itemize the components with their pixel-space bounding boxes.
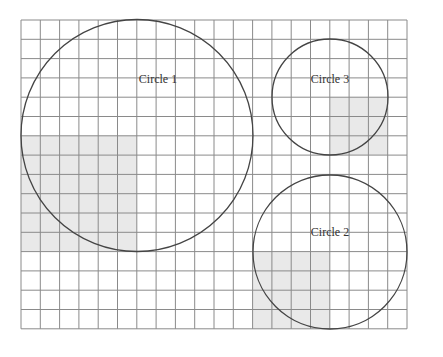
circles-grid-diagram: Circle 1Circle 2Circle 3 [0,0,443,357]
shaded-region-circle-3 [330,97,388,155]
grid [21,20,407,329]
circle-2-label: Circle 2 [311,225,349,239]
circle-3-label: Circle 3 [311,72,349,86]
circle-1-label: Circle 1 [139,72,177,86]
